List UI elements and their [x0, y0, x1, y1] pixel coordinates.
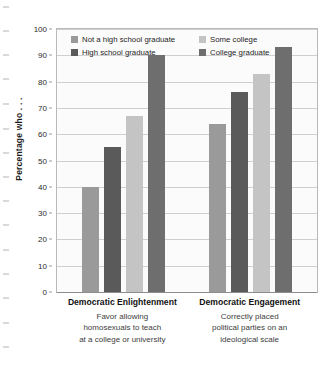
bar-0-3[interactable] [148, 55, 165, 292]
x-group-subtitle-line: Correctly placed [168, 311, 331, 323]
y-tick-label-30: 30 [0, 209, 52, 218]
y-tick-label-50: 50 [0, 156, 52, 165]
gridline-0 [57, 292, 317, 293]
bar-1-3[interactable] [275, 47, 292, 292]
y-tick-mark-60 [49, 134, 52, 135]
y-tick-label-80: 80 [0, 77, 52, 86]
y-tick-label-70: 70 [0, 103, 52, 112]
bar-1-1[interactable] [231, 92, 248, 292]
y-tick-mark-100 [49, 29, 52, 30]
scan-artifact-mark [3, 346, 9, 348]
scan-artifact-mark [3, 322, 9, 324]
y-tick-mark-10 [49, 265, 52, 266]
bar-0-0[interactable] [82, 187, 99, 292]
y-tick-mark-70 [49, 107, 52, 108]
x-group-subtitle: Correctly placedpolitical parties on ani… [168, 311, 331, 346]
y-tick-mark-80 [49, 81, 52, 82]
y-tick-mark-90 [49, 55, 52, 56]
y-tick-mark-30 [49, 213, 52, 214]
x-group-subtitle-line: ideological scale [168, 334, 331, 346]
y-axis-tick-labels: 1009080706050403020100 [0, 28, 52, 293]
bar-1-2[interactable] [253, 74, 270, 292]
bar-chart-figure: Percentage who . . . 1009080706050403020… [0, 0, 331, 371]
bar-series-container [57, 29, 317, 292]
scan-artifact-mark [3, 6, 9, 8]
bar-0-2[interactable] [126, 116, 143, 292]
y-tick-mark-40 [49, 186, 52, 187]
plot-area: Not a high school graduateSome collegeHi… [56, 28, 318, 293]
y-tick-label-60: 60 [0, 130, 52, 139]
x-axis-category-labels: Democratic EnlightenmentFavor allowingho… [56, 297, 318, 371]
x-group-subtitle-line: political parties on an [168, 322, 331, 334]
x-group-title: Democratic Engagement [168, 297, 331, 308]
y-tick-label-10: 10 [0, 261, 52, 270]
y-tick-label-20: 20 [0, 235, 52, 244]
y-tick-label-0: 0 [0, 288, 52, 297]
y-tick-mark-20 [49, 239, 52, 240]
x-group-label-1: Democratic EngagementCorrectly placedpol… [168, 297, 331, 346]
bar-0-1[interactable] [104, 147, 121, 292]
y-tick-label-90: 90 [0, 51, 52, 60]
y-tick-label-100: 100 [0, 25, 52, 34]
y-tick-mark-50 [49, 160, 52, 161]
y-tick-mark-0 [49, 292, 52, 293]
y-tick-label-40: 40 [0, 182, 52, 191]
scan-artifact-mark [3, 297, 9, 299]
bar-1-0[interactable] [209, 124, 226, 292]
